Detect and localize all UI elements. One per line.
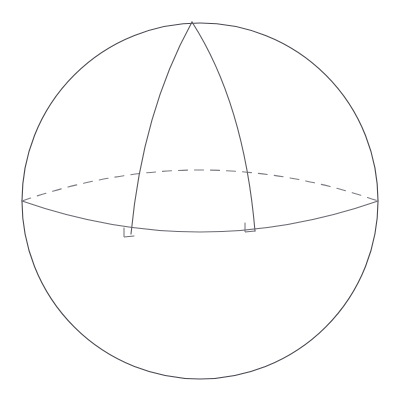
sphere-diagram-figure bbox=[0, 0, 396, 400]
sphere-svg-canvas bbox=[0, 0, 396, 400]
figure-background bbox=[0, 0, 396, 400]
